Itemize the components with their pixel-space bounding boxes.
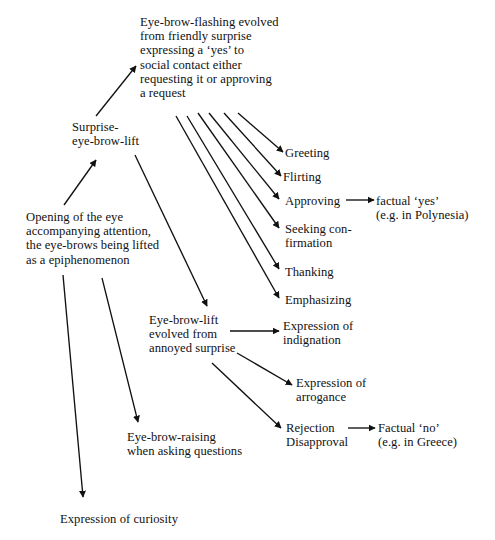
arrow-opening-to-curiosity (63, 275, 83, 497)
arrow-surprise-to-eyebrow-flashing (96, 66, 136, 116)
node-factual-yes: factual ‘yes’ (e.g. in Polynesia) (376, 194, 469, 222)
arrow-flashing-to-thanking (187, 116, 279, 269)
arrow-eyebrow-lift-to-arrogance (237, 353, 292, 385)
node-eyebrow-flashing: Eye-brow-flashing evolved from friendly … (140, 15, 279, 100)
node-seeking-confirmation: Seeking con- firmation (285, 222, 352, 250)
node-expression-of-arrogance: Expression of arrogance (296, 376, 366, 404)
node-emphasizing: Emphasizing (285, 293, 351, 307)
node-eyebrow-lift-annoyed-surprise: Eye-brow-lift evolved from annoyed surpr… (149, 313, 235, 356)
diagram-canvas: Eye-brow-flashing evolved from friendly … (0, 0, 495, 540)
arrow-flashing-to-flirting (224, 113, 281, 176)
arrow-flashing-to-seeking-confirmation (198, 113, 279, 228)
node-thanking: Thanking (285, 265, 334, 279)
node-approving: Approving (285, 194, 340, 208)
node-rejection-disapproval: Rejection Disapproval (286, 421, 348, 449)
node-expression-of-indignation: Expression of indignation (283, 319, 353, 347)
arrow-eyebrow-lift-to-rejection (212, 363, 281, 428)
node-flirting: Flirting (283, 170, 321, 184)
arrow-flashing-to-greeting (238, 113, 283, 152)
node-opening-of-the-eye: Opening of the eye accompanying attentio… (26, 210, 159, 267)
node-surprise-eye-brow-lift: Surprise- eye-brow-lift (72, 120, 139, 148)
arrow-opening-to-eyebrow-raising (102, 278, 138, 422)
node-eyebrow-raising-when-asking-questions: Eye-brow-raising when asking questions (127, 430, 242, 458)
node-factual-no: Factual ‘no’ (e.g. in Greece) (378, 421, 457, 449)
arrow-flashing-to-approving (209, 113, 279, 199)
node-expression-of-curiosity: Expression of curiosity (60, 512, 178, 526)
node-greeting: Greeting (285, 146, 329, 160)
arrow-opening-to-surprise (64, 160, 96, 205)
arrow-flashing-to-emphasizing (176, 116, 279, 298)
